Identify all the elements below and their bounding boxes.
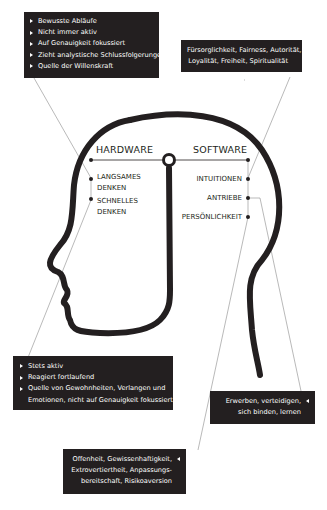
hardware-heading: HARDWARE (96, 144, 153, 155)
slow-thinking-line1: LANGSAMES (97, 172, 141, 183)
slow-thinking-line2: DENKEN (97, 183, 141, 194)
list-item: Quelle von Gewohnheiten, Verlangen und (19, 383, 167, 394)
fast-thinking-label: SCHNELLES DENKEN (97, 196, 138, 217)
bullet-icon (306, 399, 309, 403)
fast-thinking-line2: DENKEN (97, 207, 138, 218)
drives-line1: Erwerben, verteidigen, (226, 397, 301, 405)
intuitions-line2: Loyalität, Freiheit, Spiritualität (188, 57, 288, 65)
personality-line2: Extrovertiertheit, Anpassungs- (71, 466, 172, 474)
personality-line3: bereitschaft, Risikoaversion (81, 477, 172, 485)
list-item: Zieht analystische Schlussfolgerungen (29, 50, 154, 61)
list-item-continuation: Emotionen, nicht auf Genauigkeit fokussi… (19, 395, 167, 406)
list-item: Bewusste Abläufe (29, 16, 154, 27)
list-item: Auf Genauigkeit fokussiert (29, 38, 154, 49)
center-node-icon (164, 155, 175, 166)
personality-box: Offenheit, Gewissenhaftigkeit, Extrovert… (63, 449, 186, 494)
software-heading: SOFTWARE (193, 144, 247, 155)
drives-box: Erwerben, verteidigen, sich binden, lern… (210, 391, 315, 424)
drives-label: ANTRIEBE (207, 193, 242, 204)
bullet-icon (177, 457, 180, 461)
bullet-icon (306, 48, 309, 52)
list-item: Quelle der Willenskraft (29, 61, 154, 72)
list-item: Reagiert fortlaufend (19, 372, 167, 383)
intuitions-label: INTUITIONEN (196, 174, 242, 185)
fast-thinking-box: Stets aktiv Reagiert fortlaufend Quelle … (13, 356, 173, 410)
personality-line1: Offenheit, Gewissenhaftigkeit, (73, 455, 173, 463)
list-item: Stets aktiv (19, 361, 167, 372)
intuitions-box: Fürsorglichkeit, Fairness, Autorität, Lo… (181, 40, 302, 72)
personality-label: PERSÖNLICHKEIT (182, 212, 242, 223)
slow-thinking-label: LANGSAMES DENKEN (97, 172, 141, 193)
intuitions-line1: Fürsorglichkeit, Fairness, Autorität, (187, 46, 301, 54)
fast-thinking-line1: SCHNELLES (97, 196, 138, 207)
list-item: Nicht immer aktiv (29, 27, 154, 38)
slow-thinking-box: Bewusste Abläufe Nicht immer aktiv Auf G… (24, 12, 159, 78)
drives-line2: sich binden, lernen (238, 408, 301, 416)
